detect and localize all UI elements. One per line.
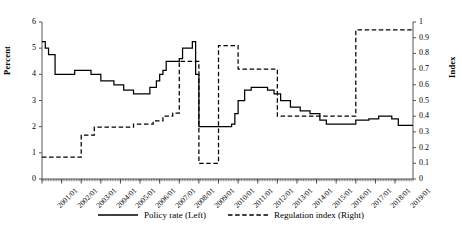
data-series [42,30,413,163]
chart-legend: Policy rate (Left)Regulation index (Righ… [0,210,462,220]
legend-label: Regulation index (Right) [274,210,364,220]
legend-item-1: Policy rate (Left) [98,210,206,220]
chart-figure: Percent Index 0123456 00.10.20.30.40.50.… [0,0,462,240]
legend-label: Policy rate (Left) [144,210,206,220]
plot-area [0,0,462,240]
solid-line-icon [98,210,138,220]
legend-item-2: Regulation index (Right) [228,210,364,220]
series-line-2 [42,30,413,163]
axes [39,22,416,184]
dashed-line-icon [228,210,268,220]
series-line-1 [42,42,413,127]
